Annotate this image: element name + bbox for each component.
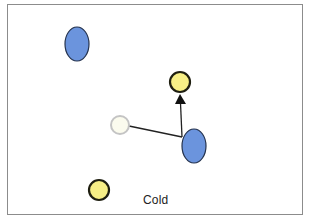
temperature-label: Cold — [143, 193, 168, 207]
ghost-particle — [111, 116, 129, 134]
yellow-particle — [89, 180, 109, 200]
blue-particle — [182, 129, 206, 163]
arrow-head-icon — [175, 94, 186, 104]
velocity-arrow-shaft — [181, 103, 183, 137]
yellow-particle — [170, 72, 190, 92]
particle-diagram — [0, 0, 310, 222]
blue-particle — [65, 27, 89, 61]
trajectory-line — [129, 126, 182, 137]
